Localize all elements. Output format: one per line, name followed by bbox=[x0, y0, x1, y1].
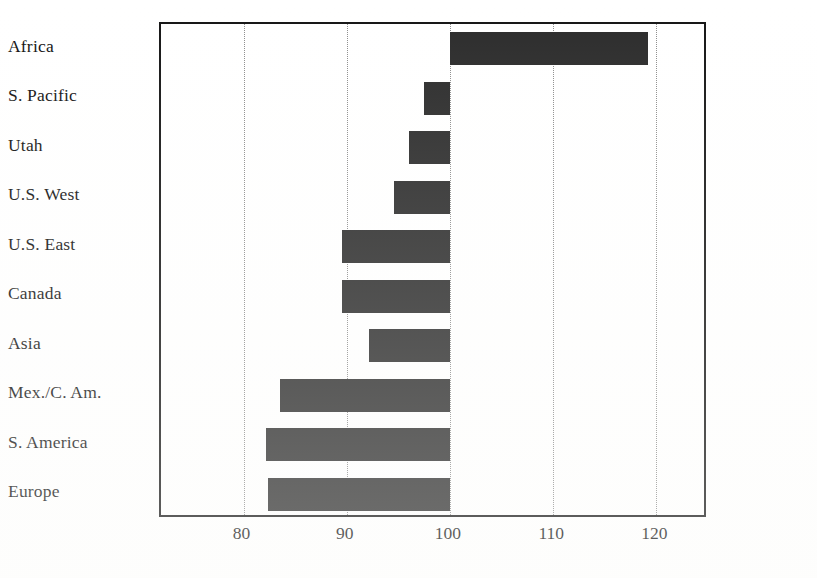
bar-utah bbox=[409, 131, 450, 164]
category-label-utah: Utah bbox=[8, 137, 140, 155]
x-tick-110: 110 bbox=[538, 525, 564, 543]
bar-chart: AfricaS. PacificUtahU.S. WestU.S. EastCa… bbox=[0, 0, 817, 578]
bar-s-america bbox=[266, 428, 450, 461]
category-label-mex-c-am: Mex./C. Am. bbox=[8, 384, 140, 402]
gridline-80 bbox=[244, 24, 245, 515]
category-label-u-s-east: U.S. East bbox=[8, 236, 140, 254]
bar-mex-c-am bbox=[280, 379, 450, 412]
bar-s-pacific bbox=[424, 82, 450, 115]
category-axis-labels: AfricaS. PacificUtahU.S. WestU.S. EastCa… bbox=[0, 0, 150, 578]
category-label-s-pacific: S. Pacific bbox=[8, 87, 140, 105]
category-label-canada: Canada bbox=[8, 285, 140, 303]
gridline-110 bbox=[553, 24, 554, 515]
bar-africa bbox=[450, 32, 648, 65]
bar-u-s-west bbox=[394, 181, 450, 214]
bar-asia bbox=[369, 329, 450, 362]
category-label-asia: Asia bbox=[8, 335, 140, 353]
bar-u-s-east bbox=[342, 230, 450, 263]
plot-area bbox=[159, 22, 706, 517]
category-label-europe: Europe bbox=[8, 483, 140, 501]
category-label-africa: Africa bbox=[8, 38, 140, 56]
bar-europe bbox=[268, 478, 450, 511]
category-label-s-america: S. America bbox=[8, 434, 140, 452]
gridline-120 bbox=[656, 24, 657, 515]
x-axis-tick-labels: 8090100110120 bbox=[159, 519, 706, 559]
x-tick-90: 90 bbox=[336, 525, 354, 543]
plot-inner bbox=[161, 24, 704, 515]
bar-canada bbox=[342, 280, 450, 313]
category-label-u-s-west: U.S. West bbox=[8, 186, 140, 204]
gridline-100 bbox=[450, 24, 451, 515]
x-tick-100: 100 bbox=[435, 525, 461, 543]
x-tick-80: 80 bbox=[233, 525, 251, 543]
x-tick-120: 120 bbox=[641, 525, 667, 543]
